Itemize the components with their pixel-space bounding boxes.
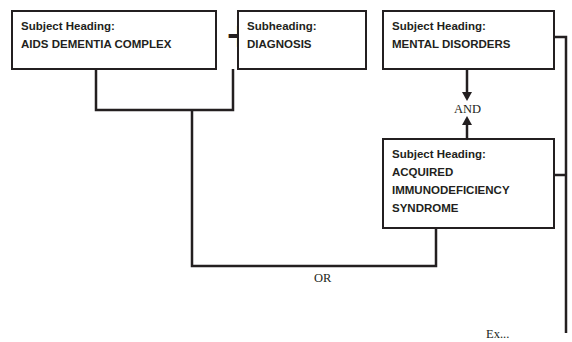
box-label: Subject Heading: — [392, 145, 545, 163]
box-value-line-1: ACQUIRED — [392, 163, 545, 181]
subheading-diagnosis: Subheading: DIAGNOSIS — [237, 10, 367, 70]
box-label: Subject Heading: — [392, 17, 545, 35]
box-value-line-3: SYNDROME — [392, 199, 545, 217]
box-label: Subheading: — [247, 17, 357, 35]
or-operator: OR — [314, 271, 331, 286]
and-operator: AND — [454, 102, 481, 117]
box-label: Subject Heading: — [21, 17, 207, 35]
subject-heading-aids-dementia-complex: Subject Heading: AIDS DEMENTIA COMPLEX — [11, 10, 217, 70]
box-value: DIAGNOSIS — [247, 35, 357, 53]
box-value-line-2: IMMUNODEFICIENCY — [392, 181, 545, 199]
subject-heading-mental-disorders: Subject Heading: MENTAL DISORDERS — [382, 10, 555, 70]
box-value: MENTAL DISORDERS — [392, 35, 545, 53]
arrow-down-icon — [462, 92, 472, 101]
arrow-up-icon — [462, 116, 472, 125]
truncated-label: Ex... — [486, 327, 509, 342]
subject-heading-acquired-immunodeficiency-syndrome: Subject Heading: ACQUIRED IMMUNODEFICIEN… — [382, 138, 555, 229]
box-value: AIDS DEMENTIA COMPLEX — [21, 35, 207, 53]
